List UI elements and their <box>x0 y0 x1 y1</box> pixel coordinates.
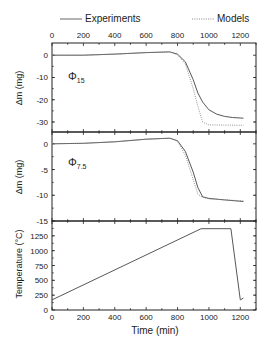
y-tick-label: 750 <box>35 262 49 271</box>
panel-3-y-axis-title: Temperature (°C) <box>14 229 24 298</box>
y-tick-label: 1250 <box>30 232 48 241</box>
y-tick-label: -5 <box>41 166 49 175</box>
models-curve <box>52 52 243 125</box>
top-x-tick-label: 0 <box>50 31 55 40</box>
legend-models-label: Models <box>217 13 249 24</box>
panel-1-annotation: Φ15 <box>68 70 85 84</box>
panel-2-frame <box>52 132 256 221</box>
top-x-tick-label: 1200 <box>231 31 249 40</box>
top-x-tick-label: 1000 <box>200 31 218 40</box>
y-tick-label: -30 <box>36 118 48 127</box>
x-axis-title: Time (min) <box>131 325 178 336</box>
bottom-x-tick-label: 400 <box>108 313 122 322</box>
panel-2-y-axis-title: Δm (mg) <box>14 160 24 195</box>
top-x-tick-labels: 0200400600800100012000200400600800100012… <box>50 31 250 322</box>
temperature-curve <box>52 229 243 300</box>
legend: Experiments Models <box>60 13 249 24</box>
y-tick-label: 500 <box>35 276 49 285</box>
y-tick-label: 1000 <box>30 247 48 256</box>
bottom-x-tick-label: 600 <box>139 313 153 322</box>
y-tick-label: -10 <box>36 73 48 82</box>
y-tick-label: 0 <box>44 140 49 149</box>
bottom-x-tick-label: 0 <box>50 313 55 322</box>
top-x-tick-label: 800 <box>171 31 185 40</box>
y-tick-label: 0 <box>44 306 49 315</box>
bottom-x-tick-label: 200 <box>77 313 91 322</box>
bottom-x-tick-label: 800 <box>171 313 185 322</box>
top-x-tick-label: 400 <box>108 31 122 40</box>
y-tick-label: 250 <box>35 291 49 300</box>
y-tick-label: -15 <box>36 217 48 226</box>
figure: Experiments Models 020040060080010001200… <box>0 0 269 351</box>
bottom-x-tick-label: 1200 <box>231 313 249 322</box>
experiments-curve <box>52 52 243 118</box>
panel-1-frame <box>52 43 256 132</box>
y-tick-labels: 0-10-20-300-5-10-15025050075010001250 <box>30 51 48 315</box>
y-tick-label: -10 <box>36 191 48 200</box>
y-tick-label: 0 <box>44 51 49 60</box>
y-tick-label: -20 <box>36 96 48 105</box>
panel-1-y-axis-title: Δm (mg) <box>14 71 24 106</box>
panel-2-annotation: Φ7.5 <box>68 156 87 170</box>
panel-3-frame <box>52 221 256 310</box>
data-curves <box>52 52 243 300</box>
legend-experiments-label: Experiments <box>85 13 141 24</box>
bottom-x-tick-label: 1000 <box>200 313 218 322</box>
top-x-tick-label: 200 <box>77 31 91 40</box>
top-x-tick-label: 600 <box>139 31 153 40</box>
